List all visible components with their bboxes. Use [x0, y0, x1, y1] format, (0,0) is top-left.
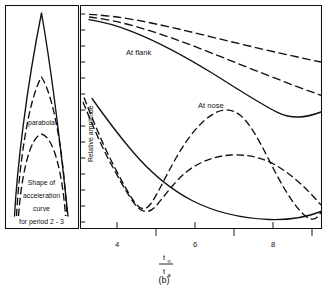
curve-nose-dashed-small	[83, 102, 321, 212]
left-curve-parabola-flat	[19, 134, 66, 216]
figure-b-container: parabola Shape of acceleration curve for…	[0, 0, 327, 288]
figure-caption: (b)	[159, 275, 170, 285]
right-panel: 4 6 8 Relative amplitude t n t a At flan…	[81, 6, 322, 278]
x-tick-label-1: 6	[193, 240, 197, 249]
x-tick-label-2: 8	[271, 240, 275, 249]
left-label-line3: curve	[33, 205, 50, 212]
annotation-at-nose: At nose	[198, 101, 224, 110]
right-panel-frame	[81, 6, 322, 229]
x-axis-label-fraction: t n t a	[159, 253, 173, 278]
x-axis-label-numerator-sub: n	[167, 258, 170, 264]
left-label-line2: acceleration	[23, 192, 60, 199]
y-axis-ticks	[81, 14, 86, 222]
x-axis-label-numerator: t	[163, 253, 166, 262]
left-label-parabola: parabola	[28, 119, 55, 127]
left-label-line4: for period 2 - 3	[19, 218, 64, 226]
x-tick-label-0: 4	[115, 240, 119, 249]
curve-nose-solid	[92, 99, 321, 220]
left-label-line1: Shape of	[28, 179, 56, 187]
curve-flank-dashed-upper	[89, 14, 321, 62]
left-panel: parabola Shape of acceleration curve for…	[6, 6, 79, 229]
annotation-at-flank: At flank	[126, 48, 152, 57]
